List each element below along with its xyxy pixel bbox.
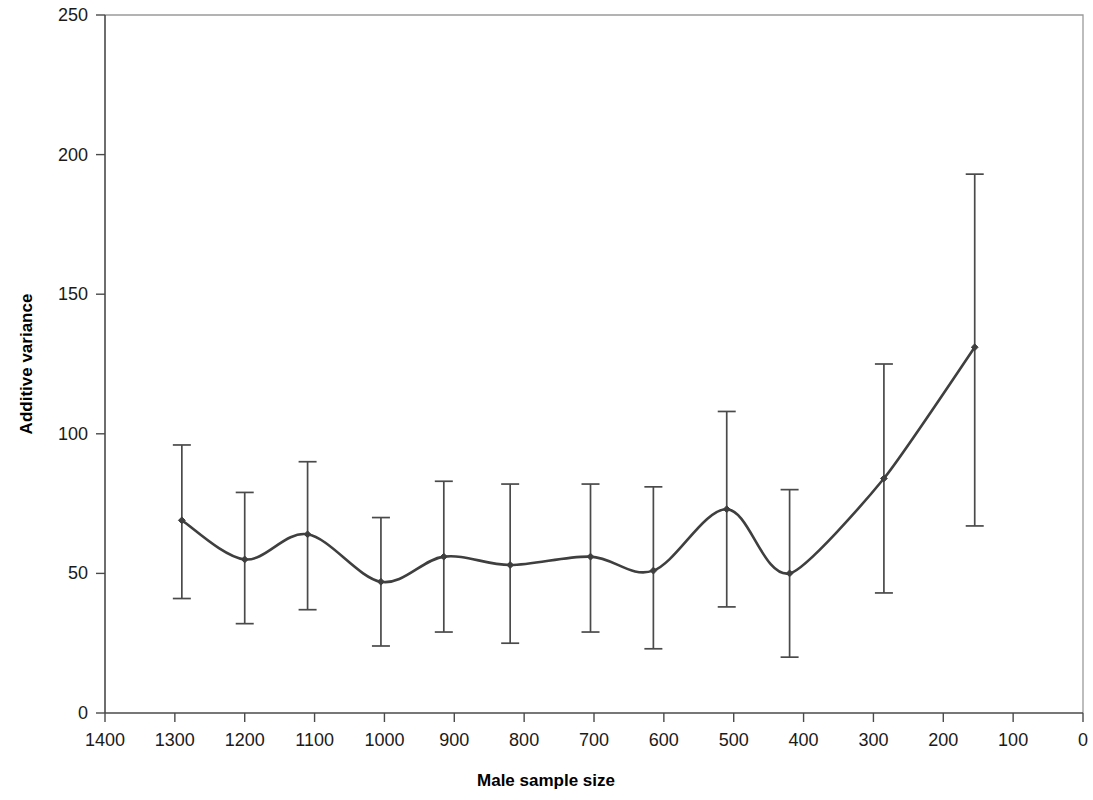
chart-figure: 050100150200250 Additive variance 140013… xyxy=(0,0,1093,800)
x-tick-label: 700 xyxy=(579,730,609,750)
y-axis-ticks: 050100150200250 xyxy=(58,5,105,723)
data-point-marker xyxy=(378,578,385,585)
x-tick-label: 1300 xyxy=(155,730,195,750)
y-tick-label: 250 xyxy=(58,5,88,25)
x-tick-label: 100 xyxy=(998,730,1028,750)
y-axis: 050100150200250 Additive variance xyxy=(17,5,105,723)
y-tick-label: 200 xyxy=(58,145,88,165)
data-point-marker xyxy=(723,506,730,513)
series-line-additive-variance xyxy=(182,347,975,582)
data-point-marker xyxy=(241,556,248,563)
x-tick-label: 1200 xyxy=(225,730,265,750)
data-point-group xyxy=(178,344,978,585)
x-tick-label: 0 xyxy=(1078,730,1088,750)
x-tick-label: 200 xyxy=(928,730,958,750)
data-point-marker xyxy=(786,570,793,577)
x-tick-label: 800 xyxy=(509,730,539,750)
x-tick-label: 900 xyxy=(439,730,469,750)
x-tick-label: 1100 xyxy=(295,730,334,750)
x-tick-label: 400 xyxy=(789,730,819,750)
data-point-marker xyxy=(587,553,594,560)
x-axis-ticks: 1400130012001100100090080070060050040030… xyxy=(85,713,1088,750)
y-tick-label: 100 xyxy=(58,424,88,444)
y-tick-label: 50 xyxy=(68,563,88,583)
x-axis-title: Male sample size xyxy=(477,771,615,790)
chart-canvas: 050100150200250 Additive variance 140013… xyxy=(0,0,1093,800)
y-tick-label: 0 xyxy=(78,703,88,723)
error-bar-group xyxy=(173,174,984,657)
x-tick-label: 600 xyxy=(649,730,679,750)
x-tick-label: 1400 xyxy=(85,730,125,750)
x-axis: 1400130012001100100090080070060050040030… xyxy=(85,713,1088,790)
x-tick-label: 500 xyxy=(719,730,749,750)
plot-frame xyxy=(105,15,1083,713)
x-tick-label: 1000 xyxy=(364,730,404,750)
data-point-marker xyxy=(440,553,447,560)
y-axis-title: Additive variance xyxy=(17,294,36,435)
data-point-marker xyxy=(507,562,514,569)
x-tick-label: 300 xyxy=(858,730,888,750)
data-point-marker xyxy=(304,531,311,538)
y-tick-label: 150 xyxy=(58,284,88,304)
plot-frame-border xyxy=(105,15,1083,713)
